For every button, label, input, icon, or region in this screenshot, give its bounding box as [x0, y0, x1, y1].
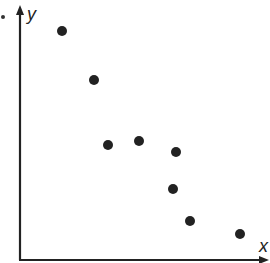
scatter-plot: y x	[0, 0, 270, 263]
data-point	[171, 147, 181, 157]
stray-dot	[1, 15, 5, 19]
data-point	[103, 140, 113, 150]
data-point	[185, 216, 195, 226]
x-axis-arrow-icon	[259, 256, 269, 263]
data-point	[134, 136, 144, 146]
data-points	[57, 26, 245, 239]
data-point	[235, 229, 245, 239]
y-axis-label: y	[25, 4, 37, 24]
data-point	[89, 75, 99, 85]
y-axis-arrow-icon	[16, 5, 24, 15]
data-point	[57, 26, 67, 36]
data-point	[168, 184, 178, 194]
x-axis-label: x	[258, 236, 269, 256]
